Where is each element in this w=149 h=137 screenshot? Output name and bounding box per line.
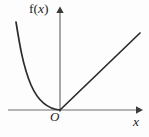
y-axis-label: f(x) [29,2,49,16]
y-axis-arrowhead [56,7,63,14]
x-axis-arrowhead [136,106,143,114]
x-axis-label: x [133,115,139,129]
graph-canvas [0,0,149,137]
y-axis-label-prefix: f( [29,1,38,16]
function-graph-figure: f(x) O x [0,0,149,137]
origin-label: O [50,110,59,123]
curve-left-branch [16,22,60,110]
curve-right-branch [60,33,140,110]
y-axis-label-suffix: ) [44,1,49,16]
